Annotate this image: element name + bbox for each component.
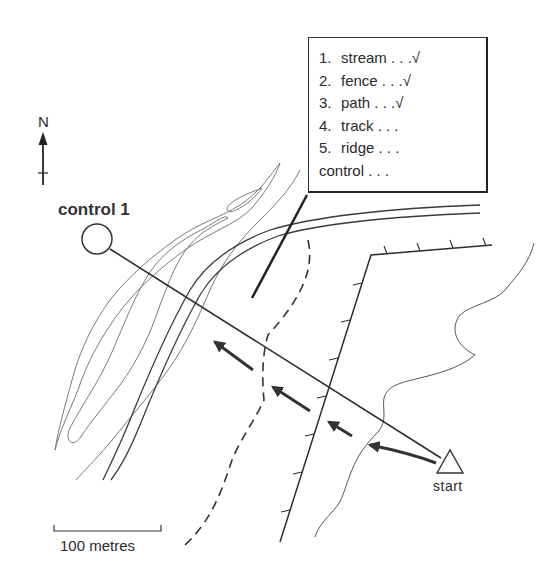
item-text: track . . . xyxy=(341,117,399,134)
checklist-item: 5.ridge . . . xyxy=(319,137,486,160)
checklist-box: 1.stream . . .√ 2.fence . . .√ 3.path . … xyxy=(308,37,488,193)
start-triangle xyxy=(437,450,463,473)
callout-pointer xyxy=(252,195,307,298)
scale-label: 100 metres xyxy=(60,537,135,554)
arrow-3 xyxy=(329,422,352,436)
item-number: 5. xyxy=(319,137,341,160)
arrow-1 xyxy=(215,342,253,370)
checklist-item: 2.fence . . .√ xyxy=(319,70,486,93)
arrow-2 xyxy=(273,387,310,411)
item-text: path . . .√ xyxy=(341,94,403,111)
control-label: control 1 xyxy=(58,200,130,220)
scale-bar xyxy=(54,525,161,531)
item-text: fence . . .√ xyxy=(341,72,411,89)
checklist-final: control . . . xyxy=(319,160,486,183)
north-arrow-icon xyxy=(38,132,48,185)
stream xyxy=(315,243,534,537)
item-number: 3. xyxy=(319,92,341,115)
fence xyxy=(280,238,492,542)
checklist-item: 3.path . . .√ xyxy=(319,92,486,115)
path-dashed xyxy=(185,240,310,545)
track xyxy=(103,205,480,480)
bearing-line xyxy=(110,249,441,458)
direction-arrows xyxy=(215,342,436,463)
item-number: 2. xyxy=(319,70,341,93)
start-label: start xyxy=(433,478,463,494)
checklist-item: 4.track . . . xyxy=(319,115,486,138)
item-number: 1. xyxy=(319,47,341,70)
item-number: 4. xyxy=(319,115,341,138)
north-label: N xyxy=(38,113,49,130)
item-text: stream . . .√ xyxy=(341,49,420,66)
checklist-item: 1.stream . . .√ xyxy=(319,47,486,70)
item-text: ridge . . . xyxy=(341,139,399,156)
control-circle xyxy=(82,224,112,254)
